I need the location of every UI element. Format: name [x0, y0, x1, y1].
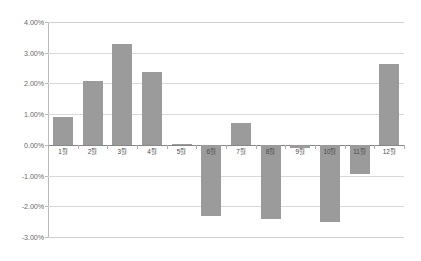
gridline — [48, 53, 404, 54]
y-axis: 4.00%3.00%2.00%1.00%0.00%-1.00%-2.00%-3.… — [0, 22, 44, 237]
y-axis-tick-label: -3.00% — [22, 233, 44, 242]
x-axis-tick-label: 7월 — [226, 147, 256, 156]
y-axis-tick-label: 3.00% — [24, 48, 44, 57]
y-axis-line — [48, 22, 49, 237]
bar-chart: 4.00%3.00%2.00%1.00%0.00%-1.00%-2.00%-3.… — [0, 0, 421, 261]
bar — [53, 117, 73, 145]
y-axis-tickmark — [45, 176, 48, 177]
x-axis-tick-label: 2월 — [78, 147, 108, 156]
gridline — [48, 237, 404, 238]
bar — [320, 145, 340, 222]
x-axis-tick-label: 3월 — [107, 147, 137, 156]
x-axis-tick-label: 11월 — [345, 147, 375, 156]
x-axis-tick-label: 5월 — [167, 147, 197, 156]
y-axis-tick-label: 0.00% — [24, 140, 44, 149]
x-axis-tick-label: 4월 — [137, 147, 167, 156]
y-axis-tickmark — [45, 22, 48, 23]
gridline — [48, 176, 404, 177]
x-axis-tick-label: 1월 — [48, 147, 78, 156]
y-axis-tickmark — [45, 206, 48, 207]
y-axis-tick-label: 2.00% — [24, 79, 44, 88]
y-axis-tick-label: -2.00% — [22, 202, 44, 211]
y-axis-tick-label: 1.00% — [24, 110, 44, 119]
bar — [83, 81, 103, 145]
plot-area — [48, 22, 404, 237]
y-axis-tickmark — [45, 83, 48, 84]
y-axis-tickmark — [45, 53, 48, 54]
x-axis-tick-label: 6월 — [196, 147, 226, 156]
y-axis-tick-label: 4.00% — [24, 18, 44, 27]
bar — [112, 44, 132, 144]
bar — [261, 145, 281, 219]
gridline — [48, 206, 404, 207]
x-axis-tick-label: 12월 — [374, 147, 404, 156]
y-axis-tickmark — [45, 114, 48, 115]
bar — [379, 64, 399, 145]
x-axis-tick-label: 9월 — [285, 147, 315, 156]
y-axis-tickmark — [45, 237, 48, 238]
bar — [142, 72, 162, 145]
gridline — [48, 22, 404, 23]
bar — [231, 123, 251, 145]
x-axis-tick-label: 8월 — [256, 147, 286, 156]
x-axis-tick-label: 10월 — [315, 147, 345, 156]
x-axis-tickmark — [404, 145, 405, 149]
bar — [172, 144, 192, 145]
y-axis-tick-label: -1.00% — [22, 171, 44, 180]
